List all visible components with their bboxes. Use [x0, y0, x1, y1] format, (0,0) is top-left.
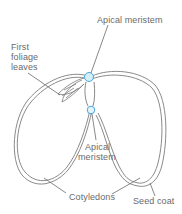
embryo-axis	[85, 82, 95, 106]
right-cotyledon-seed-coat	[92, 71, 166, 186]
label-first-foliage-leaves-line2: foliage	[11, 52, 38, 62]
label-apical-meristem-bottom-line2: meristem	[78, 152, 116, 162]
label-cotyledons: Cotyledons	[69, 192, 115, 202]
apical-meristem-top-marker	[85, 73, 94, 82]
label-first-foliage-leaves-line1: First	[11, 42, 29, 52]
leader-apical-meristem-top	[91, 25, 108, 73]
apical-meristem-bottom-marker	[87, 106, 95, 114]
label-first-foliage-leaves-line3: leaves	[11, 62, 38, 72]
leader-foliage-leaves	[28, 73, 60, 95]
seed-diagram: Apical meristem First foliage leaves Api…	[0, 0, 182, 214]
seed-illustration	[0, 0, 182, 214]
leader-seed-coat	[150, 183, 155, 196]
label-seed-coat: Seed coat	[133, 196, 174, 206]
label-apical-meristem-bottom-line1: Apical	[85, 142, 110, 152]
label-apical-meristem-top: Apical meristem	[97, 15, 163, 25]
leader-apical-meristem-bottom	[92, 114, 96, 140]
foliage-leaves	[58, 78, 84, 102]
